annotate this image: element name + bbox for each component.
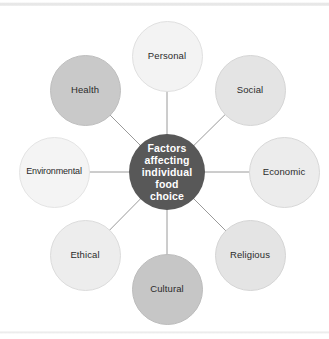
diagram-canvas: Personal Social Economic Religious Cultu… <box>0 0 329 339</box>
node-social-label: Social <box>236 85 264 95</box>
node-health[interactable]: Health <box>50 55 121 126</box>
node-social[interactable]: Social <box>215 55 286 126</box>
center-hub[interactable]: Factorsaffectingindividualfoodchoice <box>129 134 205 210</box>
node-personal[interactable]: Personal <box>132 21 203 92</box>
node-religious-label: Religious <box>229 250 271 260</box>
node-cultural[interactable]: Cultural <box>132 254 203 325</box>
node-economic-label: Economic <box>262 167 307 177</box>
node-cultural-label: Cultural <box>149 284 185 294</box>
node-environmental[interactable]: Environmental <box>19 137 90 208</box>
node-health-label: Health <box>70 85 100 95</box>
node-personal-label: Personal <box>147 51 187 61</box>
node-environmental-label: Environmental <box>25 167 83 177</box>
node-ethical[interactable]: Ethical <box>50 220 121 291</box>
node-economic[interactable]: Economic <box>249 137 320 208</box>
node-religious[interactable]: Religious <box>215 220 286 291</box>
node-ethical-label: Ethical <box>69 250 100 260</box>
center-hub-label: Factorsaffectingindividualfoodchoice <box>138 142 197 203</box>
